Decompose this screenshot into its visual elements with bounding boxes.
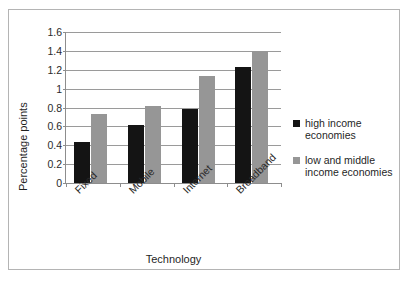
x-axis-tick-mark xyxy=(227,183,228,187)
y-axis-tick-mark xyxy=(63,70,66,71)
legend-item-label: low and middle income economies xyxy=(305,154,405,178)
y-axis-tick-mark xyxy=(63,145,66,146)
x-axis-title: Technology xyxy=(66,253,281,265)
plot-area: FixedMobileInternetBroadband xyxy=(66,32,281,183)
y-axis-tick-label: 0.8 xyxy=(47,102,62,113)
legend-item: low and middle income economies xyxy=(293,154,405,178)
gridline xyxy=(66,51,281,52)
chart-frame: 00.20.40.60.811.21.41.6 Percentage point… xyxy=(8,9,400,270)
x-axis-tick-mark xyxy=(281,183,282,187)
legend-swatch-icon xyxy=(293,120,300,127)
x-axis-tick-mark xyxy=(120,183,121,187)
x-axis-tick-mark xyxy=(174,183,175,187)
legend-item: high income economies xyxy=(293,117,405,141)
y-axis-tick-mark xyxy=(63,51,66,52)
y-axis-title-wrapper: Percentage points xyxy=(31,35,47,175)
y-axis-tick-label: 1 xyxy=(56,83,62,94)
y-axis-tick-mark xyxy=(63,32,66,33)
y-axis-tick-mark xyxy=(63,89,66,90)
x-axis-tick-mark xyxy=(66,183,67,187)
y-axis-tick-mark xyxy=(63,108,66,109)
y-axis-tick-label: 0.4 xyxy=(47,140,62,151)
y-axis-tick-label: 0.2 xyxy=(47,159,62,170)
chart-legend: high income economies low and middle inc… xyxy=(293,117,405,191)
y-axis-tick-label: 0 xyxy=(56,178,62,189)
legend-swatch-icon xyxy=(293,157,300,164)
y-axis-title: Percentage points xyxy=(17,71,29,191)
y-axis-tick-label: 1.2 xyxy=(47,65,62,76)
gridline xyxy=(66,32,281,33)
y-axis-tick-mark xyxy=(63,164,66,165)
y-axis-tick-label: 1.6 xyxy=(47,27,62,38)
bar xyxy=(235,67,251,183)
y-axis-tick-label: 0.6 xyxy=(47,121,62,132)
y-axis-tick-mark xyxy=(63,126,66,127)
y-axis-tick-label: 1.4 xyxy=(47,46,62,57)
legend-item-label: high income economies xyxy=(305,117,405,141)
